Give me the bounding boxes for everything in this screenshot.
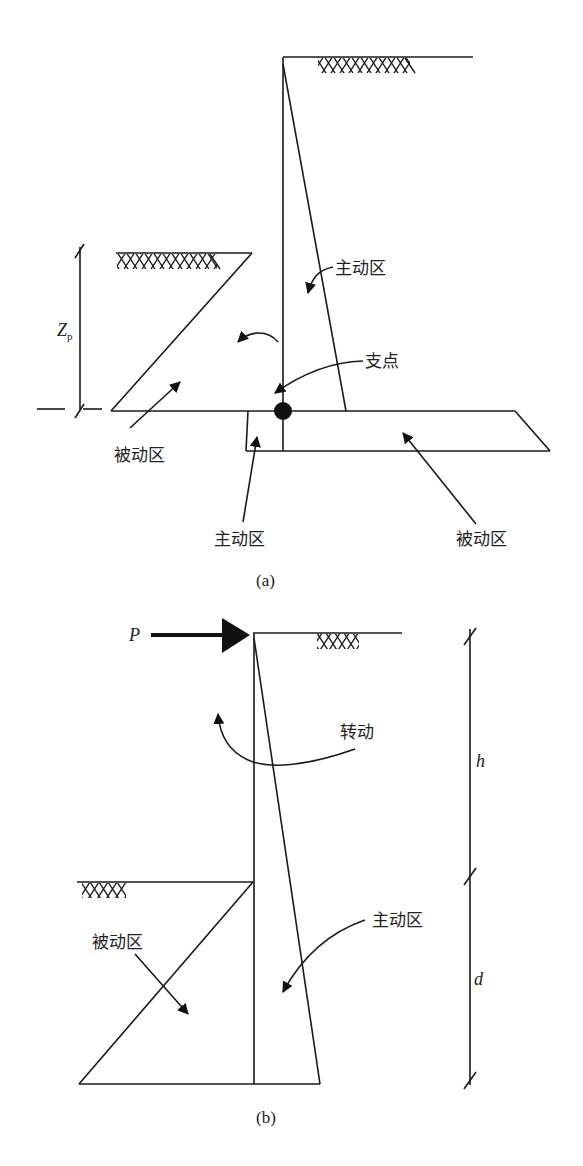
arrow-passive-left: [130, 382, 180, 428]
label-active-lower: 主动区: [214, 529, 265, 549]
force-arrowhead-icon: [222, 618, 250, 653]
label-passive-left: 被动区: [114, 445, 165, 465]
passive-right-slope: [515, 411, 550, 451]
caption-a: (a): [256, 571, 275, 590]
figure-b: P 转动 被动区 主动区 h d (b): [77, 618, 485, 1127]
label-passive-right: 被动区: [456, 529, 507, 549]
soil-hatch-icon: [318, 58, 410, 73]
passive-pressure-line: [111, 253, 252, 411]
soil-hatch-icon: [317, 634, 359, 649]
active-lower-edge: [246, 411, 248, 451]
label-passive: 被动区: [92, 932, 143, 952]
soil-hatch-icon: [117, 254, 217, 269]
label-d: d: [474, 969, 484, 989]
figure-a: Zp 主动区 支点 被动区 主动区 被动区 (a): [37, 57, 550, 590]
caption-b: (b): [256, 1108, 276, 1127]
active-pressure-line: [283, 64, 346, 411]
label-pivot: 支点: [365, 351, 399, 371]
label-active: 主动区: [372, 910, 423, 930]
rotation-arrow-icon: [218, 714, 355, 765]
label-force-p: P: [128, 625, 140, 645]
rotation-arrow-icon: [238, 333, 278, 342]
arrow-pivot: [275, 361, 363, 393]
pivot-point-icon: [274, 402, 292, 420]
label-h: h: [476, 751, 485, 771]
passive-pressure-line: [79, 882, 253, 1084]
arrow-passive-right: [403, 433, 476, 524]
soil-hatch-icon: [82, 883, 126, 898]
arrow-active-lower: [243, 437, 257, 522]
label-active-upper: 主动区: [335, 258, 386, 278]
arrow-active: [283, 920, 365, 992]
zp-label: Zp: [57, 320, 73, 342]
label-rotation: 转动: [340, 722, 374, 742]
arrow-passive: [135, 954, 188, 1014]
active-pressure-line: [254, 638, 320, 1084]
